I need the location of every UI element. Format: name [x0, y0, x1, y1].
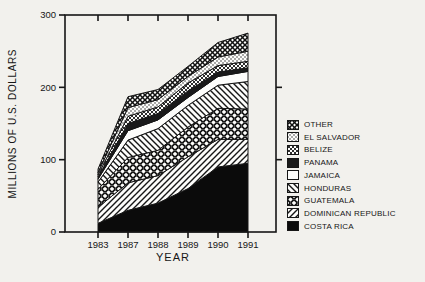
legend-item-panama: PANAMA [287, 158, 396, 167]
legend-swatch-jamaica [287, 170, 299, 180]
legend-item-jamaica: JAMAICA [287, 171, 396, 180]
x-tick-label: 1989 [177, 239, 198, 250]
x-tick-label: 1987 [117, 239, 138, 250]
legend-item-el-salvador: EL SALVADOR [287, 133, 396, 142]
legend-label-el-salvador: EL SALVADOR [304, 133, 360, 142]
legend-item-other: OTHER [287, 120, 396, 129]
legend-item-dominican-republic: DOMINICAN REPUBLIC [287, 209, 396, 218]
legend-swatch-honduras [287, 183, 299, 193]
legend-label-other: OTHER [304, 120, 333, 129]
legend-label-dominican-republic: DOMINICAN REPUBLIC [304, 209, 396, 218]
legend-label-guatemala: GUATEMALA [304, 196, 355, 205]
y-tick-label: 300 [40, 9, 56, 20]
x-tick-label: 1988 [147, 239, 168, 250]
y-tick-label: 200 [40, 82, 56, 93]
legend-swatch-other [287, 120, 299, 130]
x-tick-label: 1983 [87, 239, 108, 250]
chart-page: 0100200300198319871988198919901991 MILLI… [0, 0, 425, 282]
y-axis-title-text: MILLIONS OF U.S. DOLLARS [7, 49, 18, 198]
legend: OTHER EL SALVADOR BELIZE PANAMA JAMAICA … [287, 120, 396, 231]
legend-item-costa-rica: COSTA RICA [287, 222, 396, 231]
y-tick-label: 0 [51, 226, 56, 237]
legend-label-honduras: HONDURAS [304, 184, 351, 193]
legend-swatch-costa-rica [287, 221, 299, 231]
y-axis-title: MILLIONS OF U.S. DOLLARS [4, 15, 20, 232]
x-tick-label: 1991 [237, 239, 258, 250]
legend-swatch-guatemala [287, 196, 299, 206]
legend-item-honduras: HONDURAS [287, 183, 396, 192]
legend-swatch-el-salvador [287, 132, 299, 142]
legend-item-belize: BELIZE [287, 145, 396, 154]
legend-label-belize: BELIZE [304, 145, 333, 154]
legend-label-jamaica: JAMAICA [304, 171, 340, 180]
legend-swatch-panama [287, 158, 299, 168]
x-axis-title: YEAR [98, 251, 248, 263]
legend-item-guatemala: GUATEMALA [287, 196, 396, 205]
plot-areas [98, 33, 248, 232]
y-tick-label: 100 [40, 154, 56, 165]
x-tick-label: 1990 [207, 239, 228, 250]
legend-swatch-belize [287, 145, 299, 155]
legend-label-panama: PANAMA [304, 158, 338, 167]
legend-label-costa-rica: COSTA RICA [304, 222, 354, 231]
legend-swatch-dominican-republic [287, 208, 299, 218]
